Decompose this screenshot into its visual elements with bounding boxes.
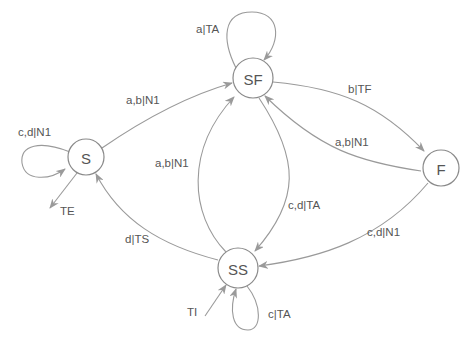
label-ss-to-sf: a,b|N1 [155,157,189,169]
edge-f-to-sf [265,96,421,171]
edge-entry-ss [205,285,226,316]
label-sf-loop: a|TA [196,23,220,35]
label-ss-to-s: d|TS [125,233,149,245]
edge-ss-to-s [96,174,218,260]
state-sf-label: SF [243,71,262,88]
label-ss-entry: TI [187,306,197,318]
state-s[interactable]: S [68,139,104,175]
state-f-label: F [436,161,445,178]
label-s-loop: c,d|N1 [18,126,51,138]
state-s-label: S [81,150,91,167]
edge-ss-loop [232,286,258,330]
edge-s-exit [50,173,77,208]
label-s-exit: TE [60,205,75,217]
label-s-to-sf: a,b|N1 [126,94,160,106]
label-sf-to-ss: c,d|TA [288,199,320,211]
state-f[interactable]: F [423,150,459,186]
state-diagram: SF S F SS a|TA a,b|N1 c,d|N1 TE b|TF a,b… [0,0,475,342]
label-f-to-sf: a,b|N1 [335,136,369,148]
edge-f-to-ss [259,183,428,266]
state-sf[interactable]: SF [233,58,273,98]
edge-ss-to-sf [198,97,234,252]
edge-s-loop [22,145,70,177]
state-ss-label: SS [228,261,248,278]
state-ss[interactable]: SS [218,248,258,288]
edge-sf-to-ss [255,98,289,251]
label-f-to-ss: c,d|N1 [367,226,400,238]
label-sf-to-f: b|TF [348,83,371,95]
label-ss-loop: c|TA [268,308,291,320]
edge-s-to-sf [102,83,232,148]
